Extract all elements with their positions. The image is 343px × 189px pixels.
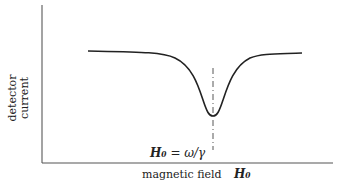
x-axis-label: magnetic field [142,168,222,181]
resonance-condition: H₀ = ω/γ [150,146,205,160]
resonance-eq: = [167,146,185,160]
y-axis-label: detector current [7,63,31,133]
resonance-omega-gamma: ω/γ [184,146,205,160]
diagram-canvas [0,0,343,189]
x-axis-symbol: H₀ [234,167,251,181]
y-label-line2: current [19,63,31,133]
resonance-curve [88,51,302,116]
resonance-h0: H₀ [150,146,167,160]
